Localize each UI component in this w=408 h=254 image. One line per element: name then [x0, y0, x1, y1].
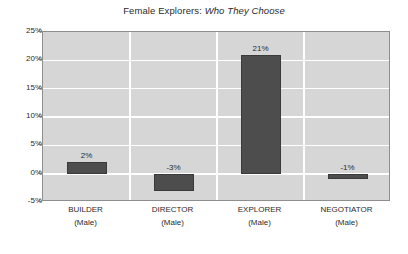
x-axis: BUILDER(Male)DIRECTOR(Male)EXPLORER(Male… [42, 203, 390, 247]
bar-value-label: 21% [231, 44, 291, 53]
y-axis-tick-label: 10% [6, 111, 42, 120]
bar-value-label: -1% [318, 163, 378, 172]
x-axis-category-name: DIRECTOR [129, 203, 216, 216]
y-axis-tick-label: -5% [6, 196, 42, 205]
gridline-vertical [303, 32, 304, 200]
bar[interactable] [241, 55, 281, 174]
chart-title: Female Explorers: Who They Choose [0, 5, 408, 16]
y-axis-tick-mark [38, 201, 42, 202]
y-axis-tick-label: 20% [6, 54, 42, 63]
y-axis-tick-label: 25% [6, 26, 42, 35]
bar-value-label: -3% [144, 163, 204, 172]
x-axis-category-sublabel: (Male) [216, 216, 303, 229]
gridline-vertical [129, 32, 130, 200]
x-axis-category-sublabel: (Male) [129, 216, 216, 229]
bar[interactable] [67, 162, 107, 173]
gridline-vertical [216, 32, 217, 200]
y-axis-tick-label: 0% [6, 168, 42, 177]
x-axis-category-label: DIRECTOR(Male) [129, 203, 216, 229]
chart-container: Female Explorers: Who They Choose 25%20%… [0, 0, 408, 254]
bar[interactable] [328, 174, 368, 180]
x-axis-category-label: EXPLORER(Male) [216, 203, 303, 229]
x-axis-category-sublabel: (Male) [42, 216, 129, 229]
chart-title-italic: Who They Choose [205, 5, 285, 16]
bar-value-label: 2% [57, 151, 117, 160]
bar[interactable] [154, 174, 194, 191]
chart-title-regular: Female Explorers: [123, 5, 202, 16]
x-axis-category-name: EXPLORER [216, 203, 303, 216]
y-axis-tick-label: 15% [6, 83, 42, 92]
x-axis-category-sublabel: (Male) [303, 216, 390, 229]
x-axis-category-label: BUILDER(Male) [42, 203, 129, 229]
y-axis-tick-label: 5% [6, 139, 42, 148]
x-axis-category-label: NEGOTIATOR(Male) [303, 203, 390, 229]
plot-area: 2%-3%21%-1% [42, 31, 390, 201]
x-axis-category-name: BUILDER [42, 203, 129, 216]
x-axis-category-name: NEGOTIATOR [303, 203, 390, 216]
y-axis: 25%20%15%10%5%0%-5% [0, 31, 42, 201]
